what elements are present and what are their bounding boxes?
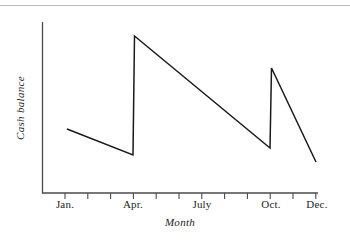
- x-tick-label-oct: Oct.: [261, 198, 280, 210]
- x-axis-title: Month: [165, 216, 195, 228]
- y-axis-title: Cash balance: [14, 76, 26, 140]
- x-tick-label-apr: Apr.: [123, 198, 143, 210]
- cash-balance-series-line: [67, 36, 316, 162]
- page-canvas: Jan. Apr. July Oct. Dec. Month Cash bala…: [0, 0, 350, 247]
- chart-plot-area: [0, 0, 350, 247]
- cash-balance-chart: Jan. Apr. July Oct. Dec. Month Cash bala…: [0, 0, 350, 247]
- x-tick-label-dec: Dec.: [306, 198, 327, 210]
- x-tick-label-jan: Jan.: [56, 198, 74, 210]
- x-tick-label-july: July: [192, 198, 211, 210]
